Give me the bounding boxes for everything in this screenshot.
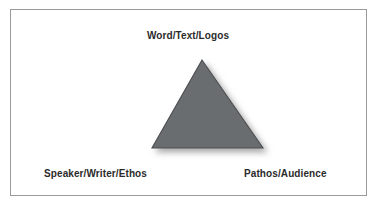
diagram-canvas: Word/Text/Logos Speaker/Writer/Ethos Pat… — [0, 0, 376, 205]
vertex-label-bottom-right: Pathos/Audience — [244, 168, 327, 180]
vertex-label-bottom-left: Speaker/Writer/Ethos — [44, 168, 147, 180]
vertex-label-top: Word/Text/Logos — [0, 30, 376, 42]
